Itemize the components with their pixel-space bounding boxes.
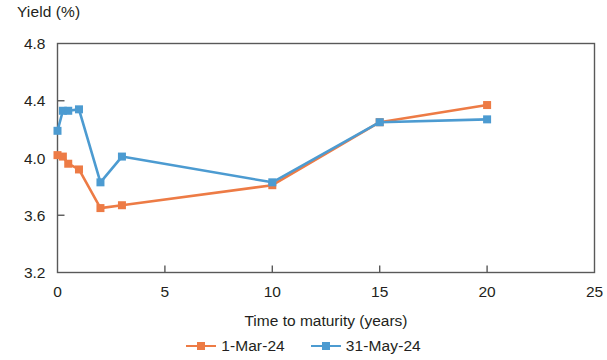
legend-label: 31-May-24 [346, 337, 421, 355]
legend-swatch-icon [186, 341, 216, 352]
data-point-marker [118, 153, 126, 161]
x-axis-title-group: Time to maturity (years) [244, 312, 407, 329]
data-point-marker [64, 160, 72, 168]
series-2 [54, 105, 492, 186]
y-tick-label: 3.6 [24, 207, 46, 224]
y-tick-label: 4.0 [24, 150, 46, 167]
x-axis-title: Time to maturity (years) [244, 312, 407, 329]
y-tick-label: 4.8 [24, 35, 46, 52]
legend-marker [197, 342, 205, 350]
x-tick-label: 20 [478, 283, 496, 300]
data-point-marker [54, 127, 62, 135]
legend-marker [322, 342, 330, 350]
x-tick-label: 0 [53, 283, 62, 300]
axis-lines [58, 44, 595, 273]
data-point-marker [483, 101, 491, 109]
legend-swatch-icon [311, 341, 341, 352]
data-point-marker [118, 201, 126, 209]
data-point-marker [75, 165, 83, 173]
data-point-marker [64, 107, 72, 115]
data-point-marker [483, 115, 491, 123]
yield-curve-chart: Yield (%) 3.23.64.04.44.8 0510152025 Tim… [0, 0, 607, 360]
y-tick-labels: 3.23.64.04.44.8 [24, 35, 46, 281]
legend-label: 1-Mar-24 [221, 337, 285, 355]
x-tick-label: 15 [371, 283, 388, 300]
data-point-marker [376, 118, 384, 126]
plot-area: 3.23.64.04.44.8 0510152025 Time to matur… [0, 0, 607, 360]
y-tick-label: 4.4 [24, 92, 46, 109]
x-tick-label: 5 [161, 283, 170, 300]
data-series [54, 101, 492, 212]
data-point-marker [268, 178, 276, 186]
chart-legend: 1-Mar-2431-May-24 [0, 337, 607, 355]
y-tick-label: 3.2 [24, 264, 46, 281]
data-point-marker [96, 178, 104, 186]
x-tick-label: 25 [586, 283, 603, 300]
data-point-marker [96, 204, 104, 212]
data-point-marker [59, 153, 67, 161]
legend-item-1[interactable]: 1-Mar-24 [186, 337, 285, 355]
x-tick-label: 10 [264, 283, 282, 300]
x-tick-labels: 0510152025 [53, 283, 603, 300]
legend-item-2[interactable]: 31-May-24 [311, 337, 421, 355]
data-point-marker [75, 105, 83, 113]
